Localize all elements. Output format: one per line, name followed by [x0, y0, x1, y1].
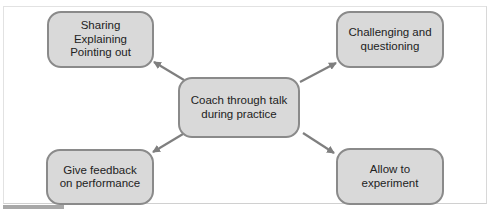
node-sharing-explaining-pointing-out: Sharing Explaining Pointing out [47, 11, 154, 68]
node-allow-to-experiment: Allow to experiment [336, 148, 444, 205]
arrow-to-sharing [154, 62, 184, 80]
arrow-to-challenge [300, 63, 336, 82]
arrow-to-feedback [153, 134, 183, 152]
arrow-to-allow [303, 133, 334, 153]
node-challenging-and-questioning: Challenging and questioning [336, 11, 444, 68]
node-center-coach-through-talk: Coach through talk during practice [178, 77, 300, 138]
node-give-feedback: Give feedback on performance [46, 149, 154, 205]
